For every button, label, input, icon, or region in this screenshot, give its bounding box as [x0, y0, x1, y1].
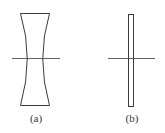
panel-a-label: (a)	[21, 112, 51, 124]
flat-plate-icon	[129, 15, 134, 107]
panel-a-concave-lens	[12, 14, 60, 106]
panel-b-label: (b)	[117, 112, 147, 124]
concave-lens-icon	[21, 14, 50, 106]
panel-b-flat-plate	[108, 15, 155, 107]
